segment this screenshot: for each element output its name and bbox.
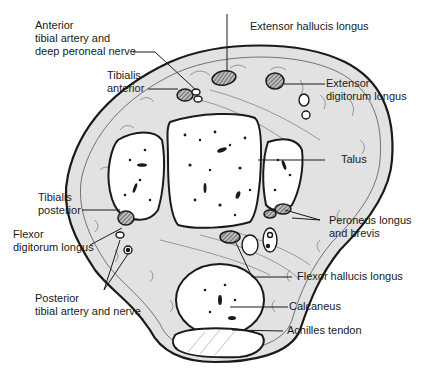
medial-malleolus-bone: [109, 133, 165, 220]
label-extensor-hallucis-longus: Extensor hallucis longus: [250, 20, 369, 33]
extensor-digitorum-tendon: [266, 73, 284, 89]
flexor-hallucis-tendon: [220, 231, 240, 243]
label-tibialis-anterior: Tibialis anterior: [107, 69, 144, 95]
label-posterior-tibial-artery: Posterior tibial artery and nerve: [35, 292, 141, 318]
label-flexor-digitorum-longus: Flexor digitorum longus: [13, 228, 94, 254]
label-tibialis-posterior: Tibialis posterior: [38, 191, 81, 217]
peroneus-longus-tendon: [275, 204, 291, 214]
label-peroneus-longus-brevis: Peroneus longus and brevis: [329, 214, 412, 240]
label-flexor-hallucis-longus: Flexor hallucis longus: [297, 270, 403, 283]
label-talus: Talus: [341, 153, 367, 166]
label-anterior-tibial-artery: Anterior tibial artery and deep peroneal…: [35, 19, 136, 58]
peroneus-brevis-tendon: [264, 210, 276, 218]
ankle-cross-section-diagram: Anterior tibial artery and deep peroneal…: [0, 0, 421, 369]
achilles-tendon: [173, 328, 264, 357]
label-extensor-digitorum-longus: Extensor digitorum longus: [326, 77, 407, 103]
label-calcaneus: Calcaneus: [289, 300, 341, 313]
tibialis-posterior-tendon: [118, 211, 134, 225]
label-achilles-tendon: Achilles tendon: [287, 324, 362, 337]
tibialis-anterior-tendon: [177, 89, 193, 101]
